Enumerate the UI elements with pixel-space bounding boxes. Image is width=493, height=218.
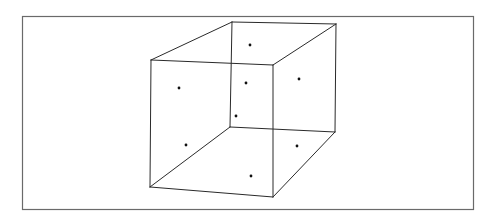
face-dot-right-lower: [296, 145, 299, 148]
cube-edge-back_top_right-to-back_bottom_right: [335, 24, 336, 132]
cube-edge-front_top_left-to-back_top_left: [151, 22, 232, 60]
cube-edge-back_top_left-to-back_top_right: [232, 22, 336, 24]
cube-diagram: [0, 0, 493, 218]
face-dot-back: [235, 115, 238, 118]
face-dot-left-lower: [185, 144, 188, 147]
cube-edge-front_bottom_right-to-front_bottom_left: [150, 187, 273, 197]
figure-frame: [23, 17, 474, 210]
face-dot-top: [249, 44, 252, 47]
face-dot-left: [178, 87, 181, 90]
face-dot-front-upper: [245, 82, 248, 85]
cube-edge-front_bottom_left-to-front_top_left: [150, 60, 151, 187]
cube-edge-front_top_right-to-back_top_right: [273, 24, 336, 65]
cube-edge-back_bottom_right-to-back_bottom_left: [230, 127, 335, 132]
face-dot-bottom: [250, 175, 253, 178]
face-dot-right: [298, 78, 301, 81]
cube-edges: [150, 22, 336, 197]
cube-edge-back_bottom_left-to-back_top_left: [230, 22, 232, 127]
diagram-canvas: [0, 0, 493, 218]
cube-edge-front_top_left-to-front_top_right: [151, 60, 273, 65]
cube-edge-front_bottom_left-to-back_bottom_left: [150, 127, 230, 187]
cube-edge-front_bottom_right-to-back_bottom_right: [273, 132, 335, 197]
